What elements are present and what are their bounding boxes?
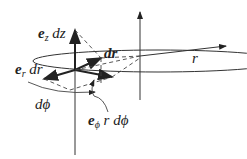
- ephi-pointer: [92, 80, 108, 112]
- er-arrow: [44, 70, 75, 79]
- label-er-dr: er dr: [15, 62, 43, 79]
- label-dphi: dϕ: [35, 97, 50, 112]
- label-ephi-rdphi: eϕ r dϕ: [88, 113, 128, 130]
- label-r: r: [192, 51, 198, 66]
- label-ez-dz: ez dz: [38, 26, 66, 43]
- dphi-arc: [28, 82, 95, 93]
- diagram-drawing: [0, 0, 247, 159]
- label-dr: dr: [104, 46, 117, 61]
- diagram-root: ez dz dr er dr r dϕ eϕ r dϕ: [0, 0, 247, 159]
- dr-arrow: [75, 58, 101, 70]
